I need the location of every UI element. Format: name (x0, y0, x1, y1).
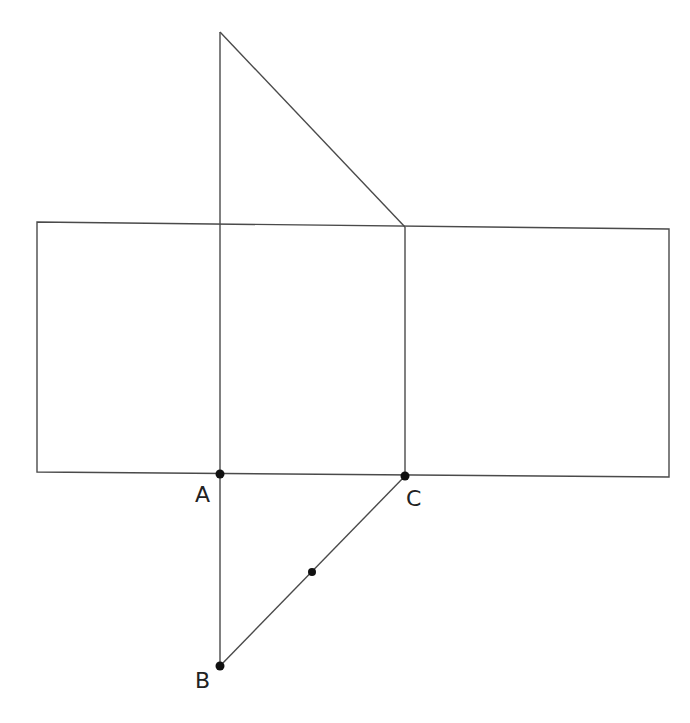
point-b (216, 662, 225, 671)
label-a: A (195, 482, 210, 507)
prism-net-diagram: A C B (0, 0, 690, 723)
rectangles-outline (37, 222, 669, 477)
label-b: B (195, 668, 210, 693)
top-triangle-hypotenuse (220, 32, 405, 227)
point-a (216, 470, 225, 479)
label-c: C (406, 486, 421, 511)
point-midpoint-bc (308, 568, 316, 576)
point-c (401, 472, 410, 481)
